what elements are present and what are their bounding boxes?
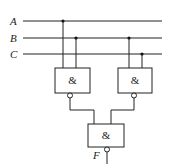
junction-dot (127, 36, 130, 39)
gate-symbol: & (68, 74, 77, 86)
input-label-c: C (10, 48, 18, 60)
input-label-a: A (9, 15, 17, 27)
nand-gate-3: & (88, 124, 124, 152)
wire-g2-to-g3 (111, 98, 134, 124)
output-label-f: F (92, 149, 100, 161)
gate-symbol: & (131, 74, 140, 86)
nand-gate-2: & (118, 68, 152, 98)
inversion-bubble (105, 147, 110, 152)
gate-symbol: & (102, 129, 111, 141)
input-label-b: B (10, 32, 17, 44)
inversion-bubble (132, 93, 137, 98)
wire-g1-to-g3 (70, 98, 94, 124)
nand-gate-1: & (55, 68, 90, 98)
inversion-bubble (68, 93, 73, 98)
junction-dot (61, 19, 64, 22)
logic-circuit-diagram: A B C & & & F (0, 0, 170, 168)
junction-dot (140, 52, 143, 55)
junction-dot (74, 36, 77, 39)
